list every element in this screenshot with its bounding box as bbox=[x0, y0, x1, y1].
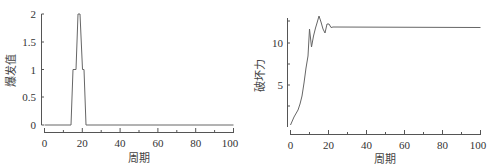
right-x-axis: 0 20 40 60 80 100 周期 bbox=[288, 130, 487, 166]
right-xtick: 20 bbox=[323, 139, 335, 151]
chart-right: 10 5 破坏力 0 20 40 60 80 100 周期 bbox=[253, 16, 487, 166]
right-xtick: 40 bbox=[361, 139, 373, 151]
left-x-axis: 0 20 40 60 80 100 周期 bbox=[42, 128, 239, 165]
chart-left: 2 1.5 1 0.5 0 爆发值 0 20 40 60 80 100 bbox=[4, 8, 239, 165]
right-ylabel: 破坏力 bbox=[253, 59, 267, 92]
right-xtick: 0 bbox=[288, 139, 294, 151]
left-xtick: 0 bbox=[42, 137, 48, 149]
right-xtick: 80 bbox=[437, 139, 449, 151]
right-ytick: 10 bbox=[272, 37, 284, 49]
left-xtick: 80 bbox=[190, 137, 202, 149]
left-ytick: 1 bbox=[31, 64, 37, 76]
left-series-line bbox=[45, 14, 234, 125]
right-y-axis: 10 5 破坏力 bbox=[253, 18, 290, 127]
left-y-axis: 2 1.5 1 0.5 0 爆发值 bbox=[4, 8, 44, 131]
left-ytick: 1.5 bbox=[22, 36, 36, 48]
left-xlabel: 周期 bbox=[128, 152, 150, 165]
left-ylabel: 爆发值 bbox=[4, 54, 18, 87]
right-ytick: 5 bbox=[278, 79, 284, 91]
left-xtick: 40 bbox=[115, 137, 127, 149]
left-ytick: 0.5 bbox=[22, 91, 36, 103]
left-ytick: 2 bbox=[31, 8, 37, 20]
left-xtick: 100 bbox=[222, 137, 239, 149]
charts-canvas: 2 1.5 1 0.5 0 爆发值 0 20 40 60 80 100 bbox=[0, 0, 491, 168]
right-xtick: 100 bbox=[470, 139, 487, 151]
right-series-line bbox=[291, 16, 481, 125]
left-xtick: 20 bbox=[77, 137, 89, 149]
left-xtick: 60 bbox=[152, 137, 164, 149]
right-xlabel: 周期 bbox=[374, 153, 396, 166]
left-ytick: 0 bbox=[31, 119, 37, 131]
right-xtick: 60 bbox=[399, 139, 411, 151]
